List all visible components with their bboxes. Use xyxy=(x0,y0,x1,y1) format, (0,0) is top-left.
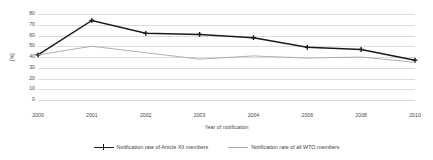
y-tick-label: 60 xyxy=(18,33,35,38)
y-axis-title: [%] xyxy=(9,49,15,65)
legend-swatch xyxy=(228,144,248,151)
x-tick-label: 2010 xyxy=(409,112,421,118)
data-point-marker xyxy=(251,35,256,40)
y-tick-label: 0 xyxy=(18,97,35,102)
plot-area xyxy=(38,14,415,100)
x-tick-label: 2002 xyxy=(140,112,152,118)
legend-label: Notification rate of all WTO members xyxy=(251,144,339,151)
x-tick-label: 2000 xyxy=(32,112,44,118)
y-tick-label: 30 xyxy=(18,65,35,70)
y-tick-label: 50 xyxy=(18,44,35,49)
data-point-marker xyxy=(197,32,202,37)
y-tick-label: 70 xyxy=(18,22,35,27)
gridline xyxy=(38,100,415,101)
x-tick-label: 2004 xyxy=(248,112,260,118)
y-tick-label: 20 xyxy=(18,76,35,81)
x-tick-label: 2001 xyxy=(86,112,98,118)
y-tick-label: 10 xyxy=(18,87,35,92)
x-tick-label: 2003 xyxy=(194,112,206,118)
series-line xyxy=(38,20,415,60)
legend-cross-marker-icon xyxy=(101,144,107,150)
legend-line-icon xyxy=(228,147,248,148)
legend-item[interactable]: Notification rate of Article XII members xyxy=(94,144,209,151)
legend: Notification rate of Article XII members… xyxy=(0,144,433,151)
x-tick-label: 2006 xyxy=(302,112,314,118)
y-axis-tick-labels: 01020304050607080 xyxy=(18,14,35,100)
legend-item[interactable]: Notification rate of all WTO members xyxy=(228,144,339,151)
x-axis-title: Year of notification xyxy=(38,124,415,130)
y-tick-label: 40 xyxy=(18,54,35,59)
data-point-marker xyxy=(359,47,364,52)
x-axis-tick-labels: 20002001200220032004200620082010 xyxy=(38,112,415,121)
line-chart: [%] 01020304050607080 200020012002200320… xyxy=(0,0,433,160)
series-layer xyxy=(38,14,415,100)
legend-label: Notification rate of Article XII members xyxy=(117,144,209,151)
data-point-marker xyxy=(305,45,310,50)
y-tick-label: 80 xyxy=(18,11,35,16)
data-point-marker xyxy=(143,31,148,36)
legend-swatch xyxy=(94,144,114,151)
x-tick-label: 2008 xyxy=(355,112,367,118)
